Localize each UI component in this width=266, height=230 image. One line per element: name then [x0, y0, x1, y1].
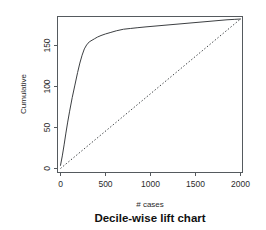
x-tick-label-0: 0	[58, 179, 63, 189]
x-tick-label-1000: 1000	[141, 179, 160, 189]
x-axis-title: # cases	[136, 200, 164, 209]
chart-background	[0, 0, 266, 230]
decile-wise-lift-chart: 0 50 100 150 0 500 1000 1500 2000 Cumula	[0, 0, 266, 230]
y-axis-title: Cumulative	[19, 73, 28, 114]
x-tick-label-2000: 2000	[231, 179, 250, 189]
x-tick-label-1500: 1500	[186, 179, 205, 189]
y-tick-label-50: 50	[42, 123, 52, 133]
chart-canvas: 0 50 100 150 0 500 1000 1500 2000 Cumula	[0, 0, 266, 230]
x-tick-label-500: 500	[98, 179, 112, 189]
y-tick-label-150: 150	[42, 38, 52, 52]
y-tick-label-100: 100	[42, 79, 52, 93]
chart-title: Decile-wise lift chart	[94, 212, 205, 224]
y-tick-label-0: 0	[42, 166, 52, 171]
